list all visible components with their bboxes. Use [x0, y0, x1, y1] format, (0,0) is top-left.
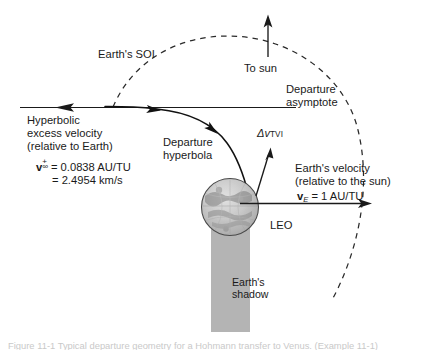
hyperbolic-excess-label-line3: (relative to Earth) — [27, 140, 113, 153]
departure-hyperbola-figure: Earth's SOI To sun Departure asymptote D… — [0, 0, 432, 350]
hyperbolic-excess-velocity-equation: v+∞ = 0.0838 AU/TU = 2.4954 km/s — [36, 160, 131, 188]
v-infinity-value-au: = 0.0838 AU/TU — [51, 161, 131, 173]
to-sun-label: To sun — [244, 62, 277, 75]
v-infinity-value-kms: = 2.4954 km/s — [52, 174, 123, 186]
departure-hyperbola-label: Departure hyperbola — [163, 136, 213, 162]
delta-v-tvi-label: ΔvTVI — [257, 127, 283, 140]
departure-asymptote-label-line1: Departure — [286, 83, 338, 96]
earth-shadow-label-line2: shadow — [232, 288, 269, 300]
v-earth-subscript: E — [303, 195, 308, 204]
v-infinity-equation-line1: v+∞ = 0.0838 AU/TU — [36, 160, 131, 174]
hyperbolic-excess-label-line2: excess velocity — [27, 127, 113, 140]
departure-asymptote-label-line2: asymptote — [286, 96, 338, 109]
v-earth-value: = 1 AU/TU — [311, 190, 363, 202]
delta-v-subscript: TVI — [270, 130, 283, 139]
earth-shadow-label-line1: Earth's — [232, 276, 269, 288]
delta-v-symbol: Δv — [257, 127, 270, 139]
earth-shadow-label: Earth's shadow — [232, 276, 269, 301]
figure-caption: Figure 11-1 Typical departure geometry f… — [8, 340, 428, 350]
departure-hyperbola-label-line1: Departure — [163, 136, 213, 149]
delta-v-arrow-shaft — [256, 155, 269, 196]
earth-velocity-label-line1: Earth's velocity — [295, 162, 391, 175]
departure-asymptote-label: Departure asymptote — [286, 83, 338, 109]
v-infinity-script: +∞ — [42, 160, 48, 171]
hyperbolic-excess-label-line1: Hyperbolic — [27, 114, 113, 127]
departure-hyperbola-label-line2: hyperbola — [163, 149, 213, 162]
earth-velocity-equation: vE = 1 AU/TU — [297, 190, 363, 205]
hyperbolic-excess-velocity-label: Hyperbolic excess velocity (relative to … — [27, 114, 113, 154]
earth-velocity-label-line2: (relative to the sun) — [295, 175, 391, 188]
delta-v-arrowhead-icon — [265, 148, 273, 161]
v-infinity-equation-line2: = 2.4954 km/s — [36, 174, 131, 187]
leo-label: LEO — [270, 219, 292, 232]
earth-velocity-label: Earth's velocity (relative to the sun) — [295, 162, 391, 188]
v-infinity-subscript: ∞ — [42, 162, 48, 171]
sphere-of-influence-label: Earth's SOI — [98, 48, 155, 61]
